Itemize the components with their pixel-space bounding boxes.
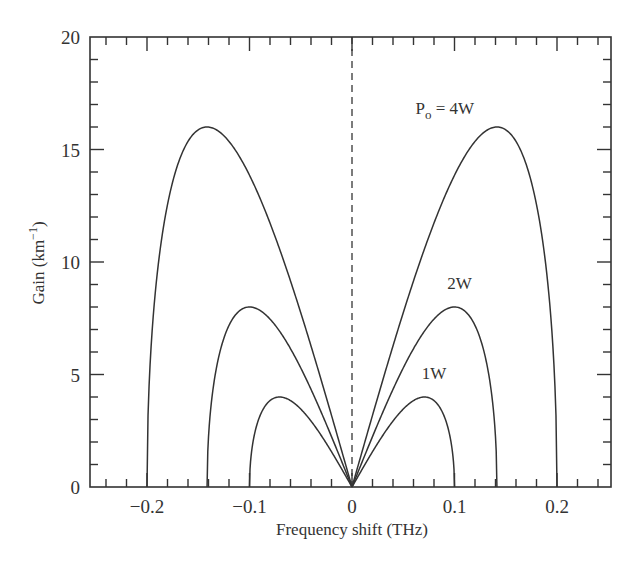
x-tick-labels: −0.2−0.100.10.2 (130, 496, 569, 517)
mi-gain-chart: −0.2−0.100.10.2 05101520 Frequency shift… (0, 0, 643, 568)
axis-ticks (90, 37, 611, 487)
plot-frame (90, 37, 611, 487)
y-tick-label: 15 (61, 140, 80, 161)
x-tick-label: 0.1 (443, 496, 467, 517)
x-axis-title: Frequency shift (THz) (276, 520, 428, 539)
y-tick-label: 5 (71, 365, 81, 386)
x-tick-label: −0.1 (232, 496, 266, 517)
y-axis-title-superscript: −1 (26, 227, 40, 240)
y-axis-title-close: ) (29, 221, 48, 227)
gain-curve-1w-positive (352, 397, 455, 487)
y-axis-title: Gain (km−1) (26, 221, 48, 304)
y-tick-label: 20 (61, 27, 80, 48)
curve-label-2w: 2W (447, 274, 473, 293)
y-axis-title-main: Gain (km (29, 240, 48, 305)
x-tick-label: 0.2 (545, 496, 569, 517)
x-tick-label: −0.2 (130, 496, 164, 517)
y-tick-label: 10 (61, 252, 80, 273)
y-tick-labels: 05101520 (61, 27, 80, 498)
curve-annotations: Po = 4W2W1W (416, 99, 476, 384)
y-tick-label: 0 (71, 477, 81, 498)
x-tick-label: 0 (347, 496, 357, 517)
gain-curve-1w-negative (250, 397, 353, 487)
curve-label-1w: 1W (422, 364, 448, 383)
curve-label-4w: Po = 4W (416, 99, 476, 122)
